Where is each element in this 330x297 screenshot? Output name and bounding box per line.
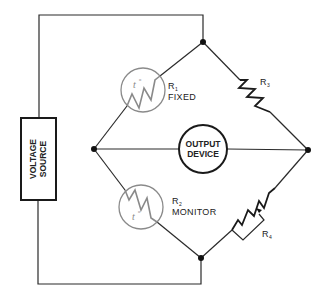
r1-label: R [168,81,175,91]
r4-label: R [262,229,269,239]
voltage-source-label-line1: VOLTAGE [28,139,38,179]
r2-label: R [172,196,179,206]
r2-desc: MONITOR [172,207,217,217]
output-device: OUTPUT DEVICE [179,125,227,173]
variable-resistor-r4: R 4 [232,188,275,240]
bridge-circuit-diagram: VOLTAGE SOURCE t o R 1 FIXED R 3 [0,0,330,297]
thermistor-r2: t o R 2 MONITOR [119,185,217,229]
r3-subscript: 3 [267,82,270,88]
voltage-source-label-line2: SOURCE [38,140,48,177]
r1-t-symbol: t [133,79,136,90]
r3-label: R [260,77,267,87]
node-right [305,147,311,153]
thermistor-r1: t o R 1 FIXED [121,68,196,112]
r1-desc: FIXED [168,92,196,102]
r2-t-symbol: t [132,211,135,222]
output-device-label-line2: DEVICE [187,149,219,159]
node-left [91,146,97,152]
node-bottom [198,255,204,261]
resistor-r3: R 3 [239,77,270,112]
node-top [200,39,206,45]
output-device-label-line1: OUTPUT [186,139,222,149]
voltage-source: VOLTAGE SOURCE [21,118,56,200]
r4-subscript: 4 [269,234,272,240]
